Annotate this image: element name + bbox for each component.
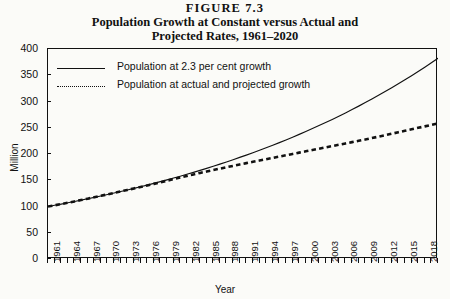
x-tick-label: 1985: [210, 241, 221, 262]
y-tick-label: 100: [20, 200, 38, 212]
figure-title-line-1: Population Growth at Constant versus Act…: [0, 15, 450, 29]
x-tick-label: 2015: [408, 241, 419, 262]
figure-container: FIGURE 7.3 Population Growth at Constant…: [0, 0, 450, 299]
y-tick-label: 200: [20, 147, 38, 159]
figure-title-line-2: Projected Rates, 1961–2020: [0, 29, 450, 43]
x-tick-label: 1994: [269, 241, 280, 262]
x-tick-label: 1967: [91, 241, 102, 262]
x-tick-label: 1976: [150, 241, 161, 262]
y-tick-label: 50: [26, 226, 38, 238]
legend-label-constant-growth: Population at 2.3 per cent growth: [117, 60, 271, 72]
y-tick-label: 300: [20, 95, 38, 107]
y-tick-mark: [47, 206, 51, 207]
x-tick-label: 1991: [249, 241, 260, 262]
legend-label-actual-projected-growth: Population at actual and projected growt…: [117, 78, 310, 90]
series-line-actual-projected-growth: [48, 123, 438, 206]
y-tick-label: 400: [20, 42, 38, 54]
x-tick-label: 1973: [130, 241, 141, 262]
y-axis-tick-labels: 050100150200250300350400: [0, 48, 45, 258]
x-tick-label: 2012: [388, 241, 399, 262]
y-tick-mark: [47, 258, 51, 259]
legend-item-actual-projected-growth: Population at actual and projected growt…: [57, 78, 317, 96]
figure-title-block: FIGURE 7.3 Population Growth at Constant…: [0, 1, 450, 43]
y-tick-mark: [47, 153, 51, 154]
x-tick-label: 1979: [170, 241, 181, 262]
figure-number: FIGURE 7.3: [0, 1, 450, 15]
y-tick-mark: [47, 127, 51, 128]
x-tick-label: 2000: [309, 241, 320, 262]
x-tick-label: 2003: [329, 241, 340, 262]
y-tick-mark: [47, 232, 51, 233]
y-tick-mark: [47, 179, 51, 180]
y-tick-label: 250: [20, 121, 38, 133]
y-tick-mark: [47, 48, 51, 49]
legend-swatch-solid-line: [57, 68, 105, 69]
y-tick-mark: [47, 101, 51, 102]
x-axis-title: Year: [0, 284, 450, 295]
y-tick-mark: [47, 74, 51, 75]
x-tick-label: 1988: [229, 241, 240, 262]
y-tick-label: 150: [20, 173, 38, 185]
x-tick-label: 1997: [289, 241, 300, 262]
y-axis-title: Million: [9, 128, 20, 188]
y-tick-label: 350: [20, 68, 38, 80]
x-tick-label: 1982: [190, 241, 201, 262]
x-tick-label: 1970: [110, 241, 121, 262]
x-tick-label: 2006: [348, 241, 359, 262]
legend-item-constant-growth: Population at 2.3 per cent growth: [57, 60, 317, 78]
x-tick-label: 2018: [428, 241, 439, 262]
chart-legend: Population at 2.3 per cent growth Popula…: [57, 60, 317, 96]
x-tick-label: 2009: [368, 241, 379, 262]
legend-swatch-dotted-line: [57, 86, 105, 87]
x-tick-label: 1961: [51, 241, 62, 262]
x-tick-label: 1964: [71, 241, 82, 262]
